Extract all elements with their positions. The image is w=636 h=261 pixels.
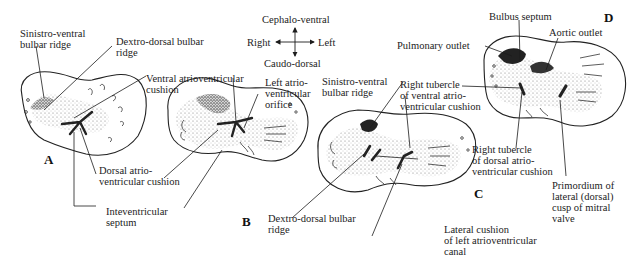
label-bulbus-septum: Bulbus septum bbox=[489, 11, 552, 22]
label-dorsal-atrioventricular-cushion: Dorsal atrio- ventricular cushion bbox=[99, 165, 180, 187]
label-dextro-dorsal-bulbar-ridge-c: Dextro-dorsal bulbar ridge bbox=[268, 213, 356, 235]
section-c-drawing bbox=[318, 110, 476, 192]
orientation-cross bbox=[276, 28, 314, 56]
label-pulmonary-outlet: Pulmonary outlet bbox=[397, 40, 470, 51]
panel-label-b: B bbox=[242, 214, 251, 230]
orientation-right-label: Left bbox=[318, 37, 336, 48]
heart-development-figure: Cephalo-ventral Caudo-dorsal Right Left … bbox=[0, 0, 636, 261]
label-interventricular-septum: Inteventricular septum bbox=[106, 206, 168, 228]
label-lateral-cushion-left-av-canal: Lateral cushion of left atrioventricular… bbox=[444, 224, 537, 257]
label-ventral-atrioventricular-cushion: Ventral atrioventricular cushion bbox=[146, 73, 244, 95]
label-sinistro-ventral-bulbar-ridge-a: Sinistro-ventral bulbar ridge bbox=[20, 28, 85, 50]
orientation-top-label: Cephalo-ventral bbox=[262, 14, 330, 25]
label-left-atrioventricular-orifice: Left atrio- ventricular orifice bbox=[265, 77, 310, 110]
label-right-tubercle-ventral-cushion: Right tubercle of ventral atrio- ventric… bbox=[400, 79, 481, 112]
label-right-tubercle-dorsal-cushion: Right tubercle of dorsal atrio- ventricu… bbox=[472, 144, 553, 177]
section-a-drawing bbox=[21, 72, 146, 155]
section-d-drawing bbox=[484, 36, 626, 126]
panel-label-a: A bbox=[44, 152, 53, 168]
label-sinistro-ventral-bulbar-ridge-c: Sinistro-ventral bulbar ridge bbox=[322, 76, 387, 98]
label-primordium-mitral-cusp: Primordium of lateral (dorsal) cusp of m… bbox=[552, 180, 614, 224]
panel-label-d: D bbox=[604, 10, 613, 26]
label-dextro-dorsal-bulbar-ridge-a: Dextro-dorsal bulbar ridge bbox=[116, 36, 204, 58]
panel-label-c: C bbox=[474, 186, 483, 202]
orientation-bottom-label: Caudo-dorsal bbox=[264, 58, 321, 69]
orientation-left-label: Right bbox=[247, 37, 270, 48]
label-aortic-outlet: Aortic outlet bbox=[549, 27, 602, 38]
